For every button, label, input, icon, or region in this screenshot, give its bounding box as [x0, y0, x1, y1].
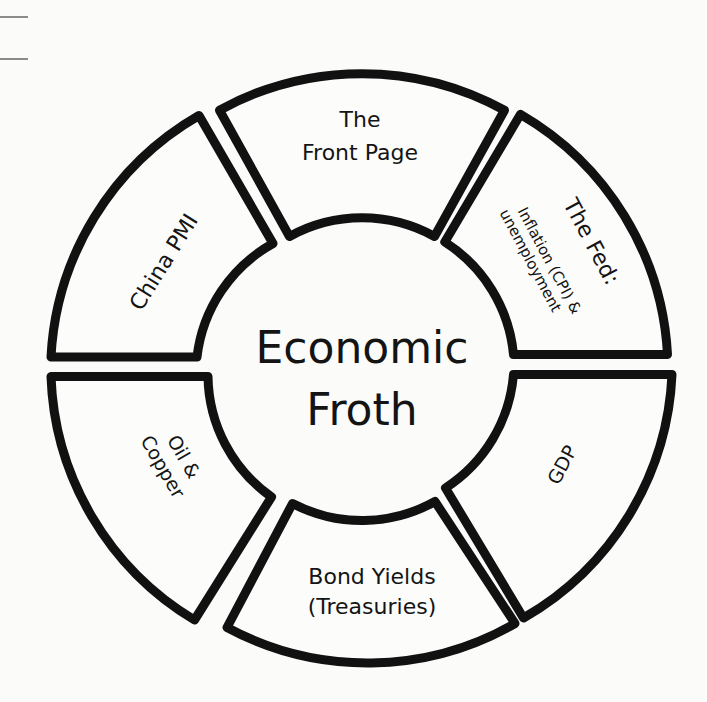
front-page-label-line-1: The [339, 107, 381, 132]
bond-yields-label-line-1: Bond Yields [308, 564, 435, 589]
segment-oil-copper [51, 377, 272, 621]
front-page-label-line-2: Front Page [302, 140, 418, 165]
center-title-line-2: Froth [306, 384, 417, 435]
economic-froth-wheel: Economic Froth The Front Page The Fed: I… [0, 0, 707, 702]
diagram-canvas: Economic Froth The Front Page The Fed: I… [0, 0, 707, 702]
bond-yields-label-line-2: (Treasuries) [308, 594, 437, 619]
center-title-line-1: Economic [256, 322, 469, 373]
